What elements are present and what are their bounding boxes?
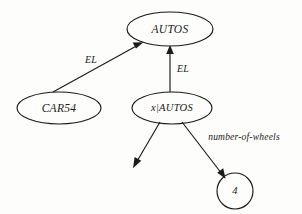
node-x-autos[interactable]: x|AUTOS [132, 92, 212, 124]
edge-label-el-car54: EL [84, 54, 97, 65]
arrowhead-xautos-dangling [133, 157, 141, 168]
edge-label-el-xautos: EL [176, 63, 189, 74]
node-four[interactable]: 4 [217, 173, 253, 209]
node-label-x-autos: x|AUTOS [150, 102, 194, 113]
node-label-autos: AUTOS [150, 23, 188, 35]
edge-xautos-dangling-left [133, 122, 160, 168]
node-label-car54: CAR54 [42, 102, 77, 114]
edge-xautos-number-of-wheels-four: number-of-wheels [182, 122, 280, 179]
diagram-canvas: EL EL number-of-wheels AUTOS CAR54 [0, 0, 302, 214]
edge-xautos-el-autos: EL [166, 45, 189, 92]
semantic-network-diagram: EL EL number-of-wheels AUTOS CAR54 [0, 0, 302, 214]
edge-line-car54-autos [53, 44, 140, 92]
edge-label-number-of-wheels: number-of-wheels [208, 132, 280, 142]
node-label-four: 4 [232, 185, 238, 196]
edge-car54-el-autos: EL [53, 42, 144, 92]
node-car54[interactable]: CAR54 [17, 92, 101, 124]
edge-line-xautos-four [182, 122, 222, 174]
edge-line-xautos-dangling [136, 122, 160, 163]
node-autos[interactable]: AUTOS [127, 12, 213, 46]
